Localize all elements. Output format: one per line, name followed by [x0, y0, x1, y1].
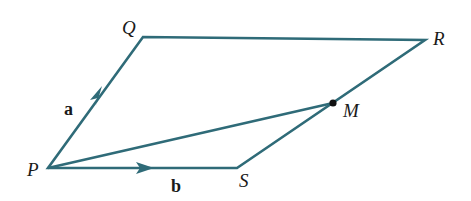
point-m-dot [329, 99, 336, 106]
label-m: M [342, 100, 360, 121]
label-vector-a: a [64, 99, 73, 119]
label-s: S [239, 170, 249, 191]
parallelogram-pqrs [48, 37, 425, 168]
label-vector-b: b [171, 176, 181, 196]
label-p: P [26, 159, 39, 180]
label-q: Q [122, 17, 136, 38]
segment-pm [48, 103, 333, 168]
parallelogram-diagram: Q R M S P a b [0, 0, 471, 201]
label-r: R [432, 28, 445, 49]
